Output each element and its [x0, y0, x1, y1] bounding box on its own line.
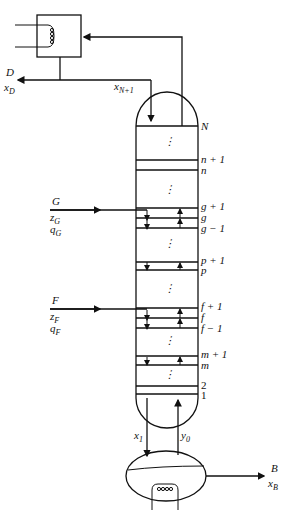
svg-text:⋮: ⋮	[164, 334, 175, 346]
coolant-coil	[15, 25, 54, 47]
svg-text:⋮: ⋮	[164, 237, 175, 249]
overhead-vapor-line	[84, 37, 182, 126]
svg-text:⋮: ⋮	[164, 135, 175, 147]
label-p: p	[200, 264, 207, 276]
label-N: N	[200, 120, 209, 132]
label-f1: f + 1	[201, 300, 222, 312]
reboiler	[126, 451, 206, 510]
label-xN1: xN+1	[113, 80, 134, 95]
label-fm1: f − 1	[201, 322, 222, 334]
distillation-column-diagram: D xD xN+1 N n + 1 n g + 1 g g − 1 p + 1 …	[0, 0, 281, 524]
svg-text:⋮: ⋮	[164, 368, 175, 380]
svg-text:⋮: ⋮	[164, 183, 175, 195]
label-D: D	[5, 66, 14, 78]
label-F: F	[51, 294, 59, 306]
svg-text:⋮: ⋮	[164, 282, 175, 294]
label-B: B	[271, 462, 278, 474]
trays	[136, 126, 198, 394]
reboiler-coil	[152, 484, 178, 510]
coil-icon	[157, 487, 172, 490]
label-G: G	[52, 195, 60, 207]
label-xD: xD	[3, 81, 15, 96]
label-n: n	[201, 164, 207, 176]
label-gm1: g − 1	[201, 222, 225, 234]
label-xB: xB	[267, 477, 278, 492]
label-m: m	[201, 359, 209, 371]
condenser	[15, 15, 81, 57]
label-y0: y0	[180, 429, 190, 444]
label-x1: x1	[133, 429, 143, 444]
coil-icon	[50, 28, 53, 43]
label-1: 1	[201, 389, 207, 401]
